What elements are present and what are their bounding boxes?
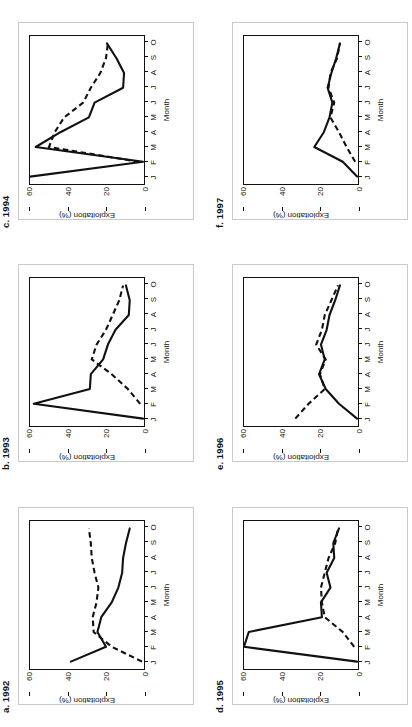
panel-frame: 0204060Exploitation (%)JFMAMJJASOMonth — [18, 264, 194, 462]
x-tick-mark — [145, 631, 148, 632]
y-axis-title: Exploitation (%) — [29, 453, 145, 462]
y-tick-label: 20 — [316, 672, 325, 692]
x-tick-label: M — [363, 144, 372, 151]
panel-label-f-1997: f. 1997 — [214, 198, 225, 228]
x-tick-mark — [145, 586, 148, 587]
x-tick-mark — [359, 344, 362, 345]
y-tick-label: 20 — [316, 187, 325, 207]
x-tick-label: M — [149, 629, 158, 636]
y-tick-label: 40 — [277, 672, 286, 692]
x-tick-label: J — [363, 176, 372, 180]
x-tick-mark — [359, 87, 362, 88]
x-tick-label: F — [363, 645, 372, 650]
x-tick-mark — [145, 72, 148, 73]
x-tick-mark — [145, 314, 148, 315]
x-tick-label: A — [363, 130, 372, 135]
x-tick-mark — [359, 284, 362, 285]
x-axis-ticks: JFMAMJJASO — [145, 520, 161, 670]
x-tick-label: F — [363, 160, 372, 165]
panel-frame: 0204060Exploitation (%)JFMAMJJASOMonth — [232, 22, 408, 220]
x-tick-label: F — [149, 645, 158, 650]
x-axis-title: Month — [376, 35, 385, 185]
x-tick-mark — [145, 147, 148, 148]
series-line-solid — [314, 44, 357, 177]
y-tick-label: 20 — [102, 429, 111, 449]
panel-d-1995: d. 19950204060Exploitation (%)JFMAMJJASO… — [214, 485, 412, 727]
x-tick-label: O — [363, 524, 372, 530]
x-tick-label: J — [149, 660, 158, 664]
x-tick-mark — [359, 661, 362, 662]
x-tick-mark — [359, 102, 362, 103]
x-tick-mark — [145, 601, 148, 602]
x-tick-label: J — [363, 101, 372, 105]
x-tick-label: M — [363, 114, 372, 121]
x-tick-label: A — [149, 372, 158, 377]
y-tick-label: 20 — [316, 429, 325, 449]
x-tick-mark — [359, 389, 362, 390]
panel-rotation-wrapper: e. 19960204060Exploitation (%)JFMAMJJASO… — [228, 256, 412, 470]
y-tick-label: 60 — [25, 429, 34, 449]
y-axis-ticks: 0204060 — [29, 429, 145, 449]
x-tick-mark — [359, 162, 362, 163]
x-tick-label: S — [149, 55, 158, 60]
y-tick-mark — [145, 449, 146, 453]
x-tick-mark — [145, 329, 148, 330]
panel-rotation-wrapper: d. 19950204060Exploitation (%)JFMAMJJASO… — [228, 499, 412, 713]
x-tick-label: J — [363, 328, 372, 332]
x-tick-mark — [359, 374, 362, 375]
x-tick-mark — [145, 162, 148, 163]
x-tick-label: O — [149, 524, 158, 530]
panel-f-1997: f. 19970204060Exploitation (%)JFMAMJJASO… — [214, 0, 412, 242]
y-tick-label: 0 — [355, 187, 364, 207]
y-tick-label: 60 — [239, 672, 248, 692]
x-tick-label: J — [149, 418, 158, 422]
y-tick-mark — [359, 692, 360, 696]
panel-a-1992: a. 19920204060Exploitation (%)JFMAMJJASO… — [0, 485, 214, 727]
x-tick-mark — [359, 359, 362, 360]
x-tick-mark — [359, 601, 362, 602]
x-tick-label: J — [149, 176, 158, 180]
x-tick-label: O — [149, 40, 158, 46]
panel-label-c-1994: c. 1994 — [0, 196, 11, 228]
series-canvas — [30, 521, 144, 669]
x-tick-label: J — [363, 343, 372, 347]
panel-c-1994: c. 19940204060Exploitation (%)JFMAMJJASO… — [0, 0, 214, 242]
x-tick-label: J — [149, 343, 158, 347]
plot-area: 0204060Exploitation (%)JFMAMJJASOMonth — [29, 277, 145, 427]
x-tick-label: M — [363, 357, 372, 364]
plot-area: 0204060Exploitation (%)JFMAMJJASOMonth — [243, 35, 359, 185]
y-axis-title: Exploitation (%) — [243, 211, 359, 220]
x-tick-label: S — [149, 297, 158, 302]
x-axis-ticks: JFMAMJJASO — [359, 520, 375, 670]
x-tick-label: J — [363, 418, 372, 422]
x-tick-label: A — [149, 130, 158, 135]
y-tick-label: 40 — [63, 187, 72, 207]
series-line-solid — [34, 286, 143, 419]
x-tick-label: A — [363, 615, 372, 620]
x-tick-mark — [359, 147, 362, 148]
x-tick-mark — [145, 299, 148, 300]
x-axis-ticks: JFMAMJJASO — [359, 35, 375, 185]
x-tick-label: M — [149, 114, 158, 121]
x-tick-label: J — [363, 570, 372, 574]
x-tick-mark — [359, 556, 362, 557]
x-tick-mark — [359, 631, 362, 632]
x-tick-mark — [145, 556, 148, 557]
y-axis-ticks: 0204060 — [243, 429, 359, 449]
plot-area: 0204060Exploitation (%)JFMAMJJASOMonth — [29, 35, 145, 185]
x-tick-mark — [145, 102, 148, 103]
x-tick-label: J — [363, 660, 372, 664]
x-tick-mark — [359, 541, 362, 542]
x-tick-label: J — [363, 585, 372, 589]
x-tick-mark — [145, 419, 148, 420]
panel-frame: 0204060Exploitation (%)JFMAMJJASOMonth — [232, 507, 408, 705]
x-tick-mark — [359, 646, 362, 647]
panel-label-d-1995: d. 1995 — [214, 680, 225, 713]
x-tick-mark — [145, 646, 148, 647]
x-tick-label: J — [149, 328, 158, 332]
panel-b-1993: b. 19930204060Exploitation (%)JFMAMJJASO… — [0, 242, 214, 484]
panel-rotation-wrapper: f. 19970204060Exploitation (%)JFMAMJJASO… — [228, 14, 412, 228]
panel-rotation-wrapper: b. 19930204060Exploitation (%)JFMAMJJASO… — [14, 256, 200, 470]
series-canvas — [244, 278, 358, 426]
